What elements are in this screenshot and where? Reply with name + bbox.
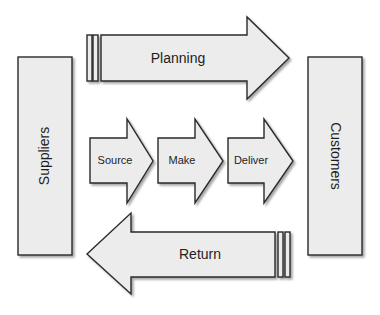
make-label: Make [169, 154, 196, 166]
planning-label: Planning [151, 50, 206, 66]
supply-chain-diagram: Suppliers Customers Planning Source Make… [0, 0, 380, 315]
planning-tab-2 [93, 35, 98, 81]
customers-label: Customers [328, 122, 344, 190]
suppliers-label: Suppliers [36, 127, 52, 185]
return-tab-2 [285, 232, 290, 277]
return-label: Return [179, 246, 221, 262]
source-label: Source [98, 154, 133, 166]
return-tab-1 [278, 232, 283, 277]
deliver-label: Deliver [234, 154, 269, 166]
planning-tab-1 [87, 35, 92, 81]
